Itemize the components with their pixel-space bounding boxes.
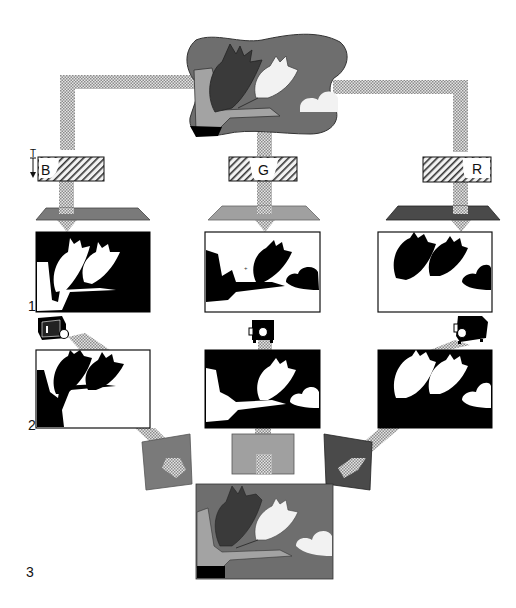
result-image	[196, 484, 333, 579]
positive-blue	[36, 350, 150, 428]
combining-filter-blue	[142, 434, 192, 490]
negative-green: +	[205, 232, 320, 312]
filter-arrow-label: T	[30, 147, 36, 161]
filter-label-blue: B	[41, 163, 50, 177]
plate-blue	[36, 208, 150, 220]
combining-filter-green	[232, 434, 294, 474]
projector-icon-blue	[38, 316, 69, 340]
negative-red	[378, 232, 492, 312]
projector-icon-green	[249, 320, 274, 343]
filter-label-red: R	[472, 162, 482, 176]
source-image	[187, 34, 347, 137]
filter-label-green: G	[258, 163, 269, 177]
positive-red	[378, 350, 492, 428]
stage-label-1: 1	[28, 299, 36, 313]
stage-label-3: 3	[26, 565, 34, 579]
projector-icon-red	[454, 316, 488, 344]
plate-red	[386, 206, 500, 220]
positive-green	[205, 350, 320, 428]
color-separation-diagram: +	[0, 0, 516, 608]
negative-blue	[36, 232, 150, 312]
svg-text:+: +	[244, 265, 248, 271]
combining-filter-red	[324, 434, 372, 490]
stage-label-2: 2	[28, 418, 36, 432]
